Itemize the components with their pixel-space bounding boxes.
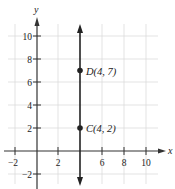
y-tick-label: 8 — [27, 55, 32, 65]
x-tick-label: 2 — [56, 158, 61, 168]
point-d-label: D(4, 7) — [85, 66, 117, 78]
y-axis-arrow-icon — [35, 17, 40, 26]
x-axis — [4, 147, 166, 155]
x-axis-arrow-icon — [158, 149, 166, 154]
coordinate-plane: y x −2 2 6 8 10 10 8 6 4 2 −2 D(4, 7) C(… — [0, 0, 175, 189]
point-d — [77, 68, 83, 74]
y-tick-label: 2 — [27, 124, 32, 134]
y-tick-label: −2 — [22, 170, 32, 180]
x-tick-label: 6 — [100, 158, 105, 168]
x-axis-label: x — [167, 145, 173, 156]
x-tick-label: −2 — [8, 158, 18, 168]
line-arrow-down-icon — [77, 177, 83, 186]
y-axis — [33, 17, 41, 189]
point-c-text: C(4, 2) — [86, 123, 116, 135]
y-axis-label: y — [33, 4, 39, 15]
x-tick-label: 10 — [141, 158, 151, 168]
x-tick-label: 8 — [122, 158, 127, 168]
y-tick-label: 4 — [27, 101, 32, 111]
point-c-label: C(4, 2) — [86, 123, 116, 135]
point-d-text: D(4, 7) — [85, 66, 117, 78]
point-c — [77, 125, 83, 131]
y-tick-label: 6 — [27, 78, 32, 88]
y-tick-label: 10 — [23, 32, 33, 42]
line-arrow-up-icon — [77, 24, 83, 33]
